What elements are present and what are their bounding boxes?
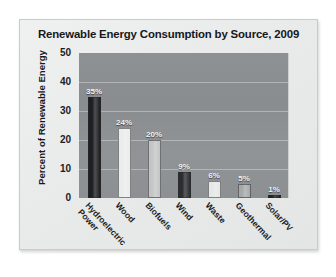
bar-value-label: 20%: [146, 130, 162, 140]
bar[interactable]: 35%: [88, 97, 101, 199]
bar[interactable]: 9%: [178, 172, 191, 198]
bar-fill: [208, 181, 221, 198]
gridline: [79, 82, 288, 83]
y-tick-label: 10: [60, 164, 71, 174]
bar[interactable]: 6%: [208, 181, 221, 198]
bar-value-label: 6%: [208, 171, 220, 181]
bar-value-label: 1%: [268, 185, 280, 195]
x-category-label: Wood: [113, 201, 136, 225]
y-tick-label: 50: [60, 48, 71, 58]
y-tick-label: 0: [65, 193, 71, 203]
x-category-label: Biofuels: [143, 201, 173, 233]
plot-area: 35%24%20%9%6%5%1%: [79, 53, 289, 198]
bar-value-label: 9%: [178, 162, 190, 172]
chart-title: Renewable Energy Consumption by Source, …: [20, 28, 317, 40]
gridline: [79, 140, 288, 141]
bar-fill: [118, 128, 131, 198]
bar-fill: [88, 97, 101, 199]
bar-value-label: 35%: [86, 87, 102, 97]
bar[interactable]: 24%: [118, 128, 131, 198]
bar-value-label: 5%: [238, 174, 250, 184]
x-category-label: Wind: [173, 201, 195, 223]
bar-fill: [178, 172, 191, 198]
bar-value-label: 24%: [116, 118, 132, 128]
bar[interactable]: 5%: [238, 184, 251, 199]
x-axis-category-labels: Hydroelectric PowerWoodBiofuelsWindWaste…: [79, 198, 289, 268]
chart-card: Renewable Energy Consumption by Source, …: [19, 19, 318, 250]
bar-fill: [148, 140, 161, 198]
bar[interactable]: 20%: [148, 140, 161, 198]
y-axis-tick-labels: 50403020100: [20, 53, 75, 198]
x-category-label: Waste: [203, 201, 227, 226]
y-tick-label: 40: [60, 77, 71, 87]
y-tick-label: 20: [60, 135, 71, 145]
bar-fill: [238, 184, 251, 199]
y-tick-label: 30: [60, 106, 71, 116]
gridline: [79, 111, 288, 112]
